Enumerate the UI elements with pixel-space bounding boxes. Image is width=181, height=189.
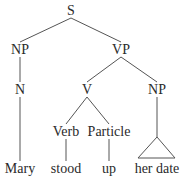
node-np-subject: NP bbox=[11, 42, 29, 57]
node-s: S bbox=[67, 3, 75, 18]
edge-v-particle bbox=[87, 97, 109, 124]
edge-vp-np2 bbox=[121, 57, 157, 82]
edge-vp-v bbox=[87, 57, 121, 82]
leaf-stood: stood bbox=[51, 161, 81, 176]
leaf-up: up bbox=[102, 161, 116, 176]
syntax-tree: S NP VP N V NP Verb Particle Mary stood … bbox=[0, 0, 181, 189]
node-particle: Particle bbox=[88, 124, 131, 139]
tree-labels: S NP VP N V NP Verb Particle Mary stood … bbox=[5, 3, 180, 176]
edge-v-verb bbox=[66, 97, 87, 124]
leaf-mary: Mary bbox=[5, 161, 35, 176]
node-vp: VP bbox=[112, 42, 130, 57]
triangle-roof bbox=[138, 137, 175, 158]
node-v: V bbox=[82, 82, 92, 97]
node-verb: Verb bbox=[53, 124, 79, 139]
node-n: N bbox=[15, 82, 25, 97]
node-np-object: NP bbox=[148, 82, 166, 97]
edge-s-np1 bbox=[20, 18, 71, 42]
edge-s-vp bbox=[71, 18, 121, 42]
leaf-her-date: her date bbox=[135, 161, 180, 176]
